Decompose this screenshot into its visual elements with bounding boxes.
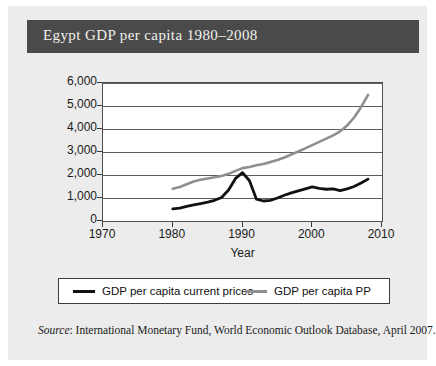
y-axis-tick-mark: [97, 128, 102, 129]
chart-legend: GDP per capita current pricesGDP per cap…: [58, 278, 390, 304]
y-axis-tick-label: 5,000: [51, 97, 97, 111]
y-axis-tick-label: 2,000: [51, 166, 97, 180]
legend-item-label: GDP per capita current prices: [102, 285, 253, 297]
y-axis-tick-mark: [97, 220, 102, 221]
series-lines: [103, 83, 382, 221]
x-axis-tick-label: 1980: [158, 227, 185, 241]
y-axis-tick-label: 6,000: [51, 74, 97, 88]
chart-container: 6,0005,0004,0003,0002,0001,0000 19701980…: [27, 62, 419, 268]
page-sheet: Egypt GDP per capita 1980–2008 6,0005,00…: [8, 6, 427, 360]
y-axis-tick-mark: [97, 151, 102, 152]
y-axis-tick-mark: [97, 174, 102, 175]
y-axis-tick-mark: [97, 197, 102, 198]
y-axis-tick-mark: [97, 82, 102, 83]
y-axis-tick-label: 4,000: [51, 120, 97, 134]
x-axis-tick-label: 2010: [368, 227, 395, 241]
y-axis-tick-label: 3,000: [51, 143, 97, 157]
legend-item: GDP per capita current prices: [73, 283, 253, 299]
legend-color-swatch: [245, 290, 267, 293]
legend-item-label: GDP per capita PP: [274, 285, 371, 297]
y-axis-tick-label: 1,000: [51, 189, 97, 203]
y-axis-tick-mark: [97, 105, 102, 106]
legend-item: GDP per capita PP: [245, 283, 371, 299]
x-axis-tick-label: 1990: [228, 227, 255, 241]
x-axis-tick-mark: [381, 222, 382, 227]
x-axis-tick-label: 2000: [298, 227, 325, 241]
x-axis-tick-mark: [242, 222, 243, 227]
x-axis-tick-mark: [102, 222, 103, 227]
page-title: Egypt GDP per capita 1980–2008: [43, 27, 258, 44]
series-line-current-prices: [173, 173, 368, 209]
x-axis-tick-mark: [311, 222, 312, 227]
x-axis-tick-mark: [172, 222, 173, 227]
source-note: Source: International Monetary Fund, Wor…: [38, 324, 418, 336]
source-text: : International Monetary Fund, World Eco…: [70, 324, 436, 336]
source-label: Source: [38, 324, 70, 336]
x-axis-tick-label: 1970: [89, 227, 116, 241]
legend-color-swatch: [73, 290, 95, 293]
x-axis-tick-labels: 19701980199020002010: [102, 227, 383, 245]
x-axis-title: Year: [102, 246, 383, 260]
chart-title-banner: Egypt GDP per capita 1980–2008: [27, 20, 419, 53]
plot-area: [102, 82, 383, 222]
y-axis-tick-label: 0: [51, 212, 97, 226]
y-axis-tick-labels: 6,0005,0004,0003,0002,0001,0000: [47, 82, 97, 222]
series-line-ppp: [173, 95, 368, 189]
